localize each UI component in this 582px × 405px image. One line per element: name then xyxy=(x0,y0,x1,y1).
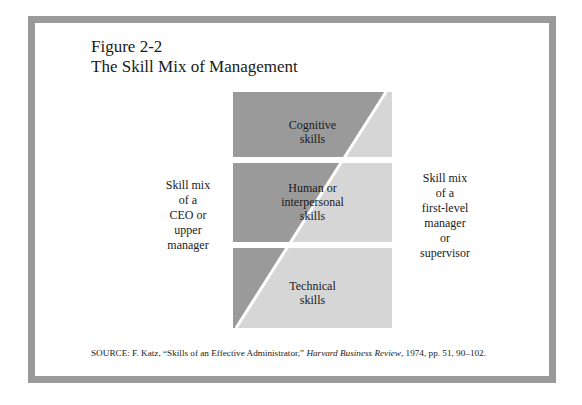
figure-title: The Skill Mix of Management xyxy=(91,57,298,77)
skill-mix-diagram: Cognitive skills Human or interpersonal … xyxy=(233,92,392,328)
ceo-skill-mix-label: Skill mix of a CEO or upper manager xyxy=(148,178,228,253)
source-citation: SOURCE: F. Katz, “Skills of an Effective… xyxy=(91,348,486,358)
supervisor-skill-mix-label: Skill mix of a first-level manager or su… xyxy=(400,171,490,261)
band-label-technical: Technical skills xyxy=(233,279,392,307)
band-label-human: Human or interpersonal skills xyxy=(233,181,392,223)
figure-heading: Figure 2-2 The Skill Mix of Management xyxy=(91,37,298,77)
figure-number: Figure 2-2 xyxy=(91,37,298,57)
band-label-cognitive: Cognitive skills xyxy=(233,118,392,146)
